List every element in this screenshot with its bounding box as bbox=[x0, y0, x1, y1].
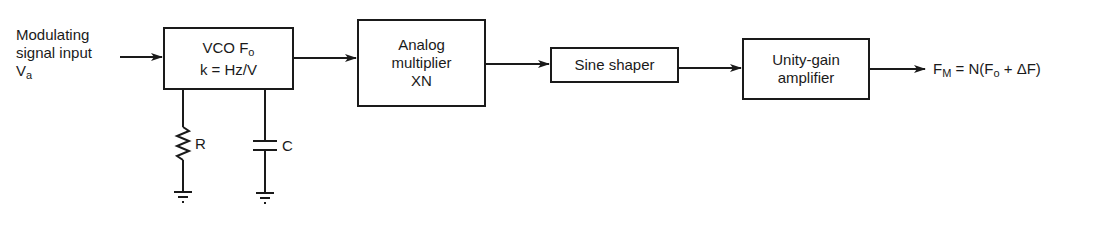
unity-gain-amplifier-block: Unity-gain amplifier bbox=[742, 38, 870, 100]
multiplier-line3: XN bbox=[411, 72, 432, 90]
analog-multiplier-block: Analog multiplier XN bbox=[357, 19, 486, 107]
resistor-icon bbox=[177, 89, 189, 192]
amplifier-line2: amplifier bbox=[778, 69, 835, 87]
output-equation: FM = N(Fo + ΔF) bbox=[933, 60, 1041, 82]
vco-title: VCO Fo bbox=[203, 39, 255, 61]
sine-shaper-label: Sine shaper bbox=[574, 56, 654, 74]
multiplier-line2: multiplier bbox=[391, 54, 451, 72]
ground-icon-c bbox=[256, 193, 274, 203]
multiplier-line1: Analog bbox=[398, 36, 445, 54]
vco-gain: k = Hz/V bbox=[200, 61, 257, 79]
ground-icon-r bbox=[174, 192, 192, 202]
input-label-line2: signal input bbox=[16, 44, 92, 62]
resistor-label: R bbox=[195, 135, 206, 153]
sine-shaper-block: Sine shaper bbox=[550, 47, 679, 83]
amplifier-line1: Unity-gain bbox=[772, 51, 840, 69]
capacitor-icon bbox=[253, 89, 277, 193]
capacitor-label: C bbox=[282, 137, 293, 155]
input-label-line1: Modulating bbox=[16, 26, 89, 44]
vco-block: VCO Fo k = Hz/V bbox=[163, 27, 294, 90]
input-symbol: Va bbox=[16, 62, 32, 84]
